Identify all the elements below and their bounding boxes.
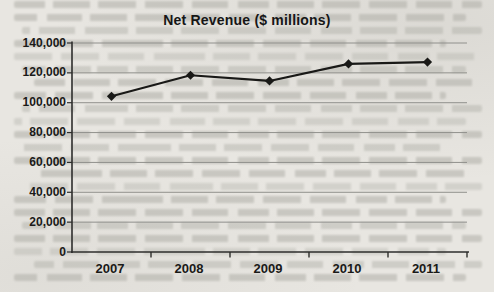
data-point-marker bbox=[423, 58, 432, 67]
data-point-marker bbox=[186, 71, 195, 80]
scanned-book-page: Net Revenue ($ millions) 020,00040,00060… bbox=[0, 0, 494, 292]
data-point-marker bbox=[107, 92, 116, 101]
net-revenue-line-chart bbox=[0, 0, 494, 292]
data-point-marker bbox=[265, 76, 274, 85]
data-point-marker bbox=[344, 59, 353, 68]
